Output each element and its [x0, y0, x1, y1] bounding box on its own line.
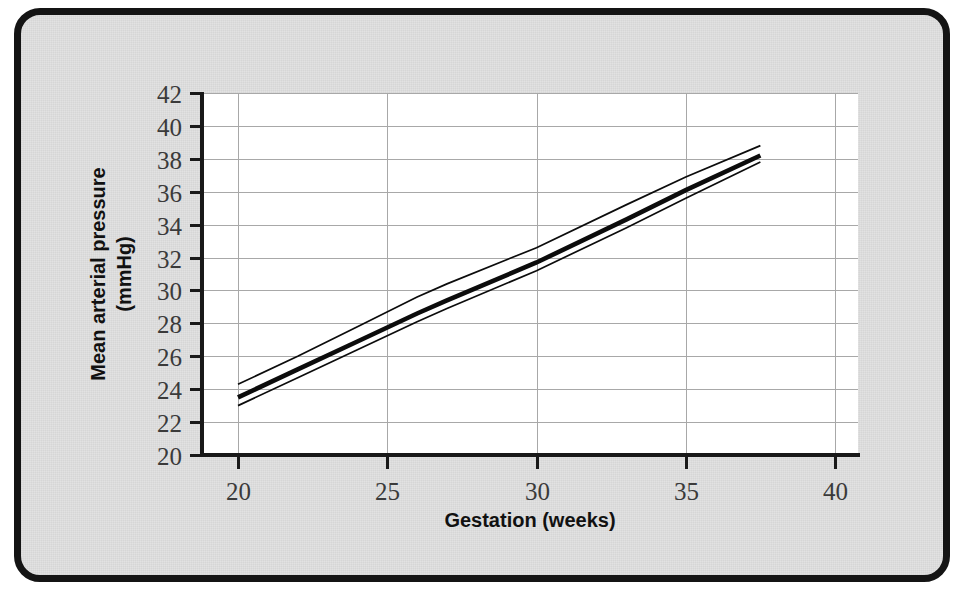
mean-arterial-pressure-line-chart: 202224262830323436384042 2025303540 Gest…	[0, 0, 964, 592]
y-tick-label-20: 20	[157, 443, 182, 470]
x-axis-ticks	[239, 455, 836, 469]
y-axis-title-line-2: (mmHg)	[113, 236, 135, 312]
x-tick-label-25: 25	[375, 478, 400, 505]
y-tick-label-22: 22	[157, 410, 182, 437]
x-tick-label-35: 35	[674, 478, 699, 505]
y-tick-label-38: 38	[157, 147, 182, 174]
y-tick-label-34: 34	[157, 213, 183, 240]
x-axis-tick-labels: 2025303540	[226, 478, 848, 505]
y-tick-label-32: 32	[157, 246, 182, 273]
y-axis-title: Mean arterial pressure (mmHg)	[87, 167, 135, 380]
x-tick-label-30: 30	[525, 478, 550, 505]
y-tick-label-26: 26	[157, 344, 182, 371]
x-axis-title: Gestation (weeks)	[444, 509, 615, 531]
chart-canvas: 202224262830323436384042 2025303540 Gest…	[0, 0, 964, 592]
x-tick-label-20: 20	[226, 478, 251, 505]
y-tick-label-30: 30	[157, 278, 182, 305]
x-tick-label-40: 40	[823, 478, 848, 505]
y-axis-ticks	[190, 94, 202, 456]
y-tick-label-28: 28	[157, 311, 182, 338]
y-tick-label-24: 24	[157, 377, 183, 404]
y-tick-label-42: 42	[157, 81, 182, 108]
y-axis-tick-labels: 202224262830323436384042	[157, 81, 183, 470]
y-axis-title-line-1: Mean arterial pressure	[87, 167, 109, 380]
y-tick-label-36: 36	[157, 180, 182, 207]
y-tick-label-40: 40	[157, 114, 182, 141]
